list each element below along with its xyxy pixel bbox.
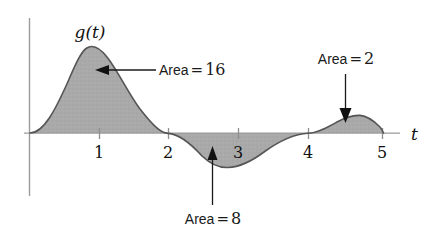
tick-label-1: 1 xyxy=(94,145,104,161)
area-8-label: Area=8 xyxy=(185,211,241,227)
area-16-label: Area=16 xyxy=(159,62,226,78)
tick-label-3: 3 xyxy=(233,145,243,161)
area-2-value: 2 xyxy=(364,49,374,68)
area-8-value: 8 xyxy=(231,209,241,228)
figure-canvas: g(t) t 1 2 3 4 5 Area=16 Area=2 Area=8 xyxy=(0,0,442,246)
area-8-prefix: Area xyxy=(185,211,215,227)
area-2-prefix: Area xyxy=(318,51,348,67)
area-16-value: 16 xyxy=(205,60,225,79)
tick-label-2: 2 xyxy=(163,145,173,161)
area-8-equals: = xyxy=(214,210,231,228)
function-label: g(t) xyxy=(75,24,106,41)
area-2-arrow xyxy=(340,74,352,123)
tick-label-4: 4 xyxy=(303,145,313,161)
area-2-label: Area=2 xyxy=(318,51,374,67)
area-16-equals: = xyxy=(189,61,206,79)
t-axis-label: t xyxy=(411,126,418,143)
area-2-equals: = xyxy=(347,50,364,68)
area-16-prefix: Area xyxy=(159,62,189,78)
tick-label-5: 5 xyxy=(377,145,387,161)
